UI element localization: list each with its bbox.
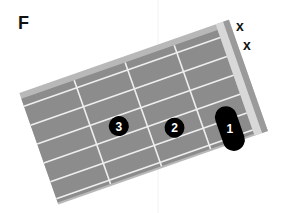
finger-number: 2: [171, 121, 178, 135]
finger-number: 3: [115, 120, 122, 134]
muted-string-5-icon: x: [243, 37, 251, 53]
muted-string-6-icon: x: [236, 18, 244, 34]
chord-diagram: 3 2 1 x x: [0, 0, 288, 213]
fretboard: 3 2 1: [19, 20, 270, 212]
finger-number: 1: [227, 122, 234, 136]
